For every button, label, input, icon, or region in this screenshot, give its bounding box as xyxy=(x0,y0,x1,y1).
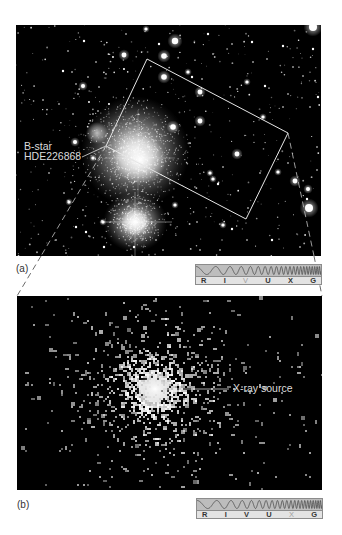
band-g: G xyxy=(310,277,316,284)
band-v: V xyxy=(244,511,249,518)
band-r: R xyxy=(201,277,206,284)
spectrum-band-indicator-b: R I V U X G xyxy=(196,498,323,519)
xray-core-glow xyxy=(135,372,175,406)
panel-a-label: (a) xyxy=(16,263,28,275)
band-g: G xyxy=(311,511,317,518)
band-x: X xyxy=(288,277,293,284)
band-r: R xyxy=(202,511,207,518)
band-v: V xyxy=(243,277,248,284)
star-field-graphic xyxy=(16,25,321,256)
hde226868-label: HDE226868 xyxy=(24,151,81,162)
panel-b-label: (b) xyxy=(17,499,29,511)
band-i: I xyxy=(225,511,227,518)
wavelength-wave-icon xyxy=(196,265,321,277)
figure: B-star HDE226868 (a) R I V U X G X-ray s… xyxy=(0,0,342,535)
band-u: U xyxy=(265,277,270,284)
band-x: X xyxy=(289,511,294,518)
band-u: U xyxy=(266,511,271,518)
band-i: I xyxy=(224,277,226,284)
spectrum-band-indicator-a: R I V U X G xyxy=(195,264,322,285)
optical-star-field-image xyxy=(16,25,321,256)
xray-source-label: X-ray source xyxy=(233,383,293,394)
wavelength-wave-icon xyxy=(197,499,322,511)
